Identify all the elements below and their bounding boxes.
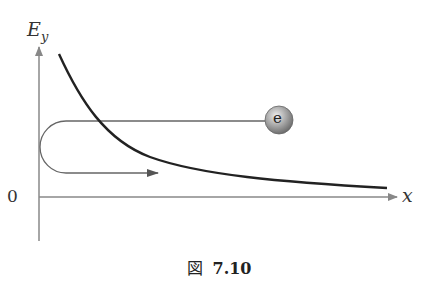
origin-label: 0 <box>7 186 18 206</box>
figure-canvas <box>0 0 438 290</box>
y-label-subscript: y <box>41 29 48 44</box>
figure-caption: 図7.10 <box>0 255 438 279</box>
y-axis-label: Ey <box>27 18 48 44</box>
particle-label: e <box>273 109 282 127</box>
y-label-main: E <box>27 18 41 40</box>
electron-trajectory <box>40 121 265 173</box>
x-axis-label: x <box>402 184 413 206</box>
caption-prefix: 図 <box>187 259 203 278</box>
caption-number: 7.10 <box>213 259 252 278</box>
